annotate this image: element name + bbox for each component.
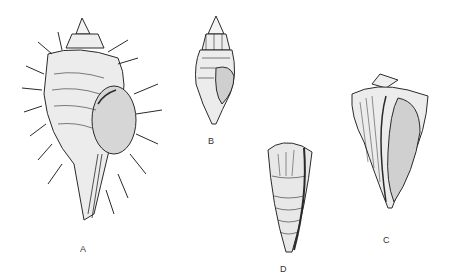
label-c: C [383, 235, 390, 245]
shell-c-illustration [346, 72, 436, 212]
label-a: A [80, 244, 86, 254]
shell-a-illustration [18, 14, 168, 224]
label-d: D [280, 264, 287, 274]
label-b: B [208, 136, 214, 146]
shell-d-illustration [262, 136, 318, 254]
shell-b-illustration [186, 14, 242, 126]
